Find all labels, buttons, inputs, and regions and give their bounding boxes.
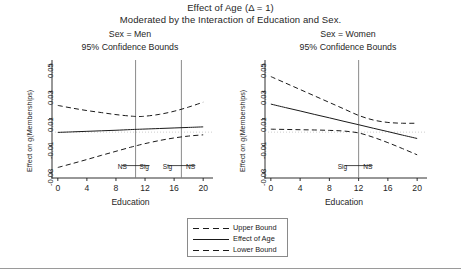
legend-key-solid-effect bbox=[193, 238, 229, 239]
footer-rule bbox=[0, 268, 461, 269]
ytick-label-men-3: 0.03 bbox=[46, 90, 55, 105]
series-upper-bound bbox=[271, 77, 417, 124]
xtick-label-men-5: 20 bbox=[188, 183, 218, 193]
sig-annotation-women-1: NS bbox=[363, 163, 372, 170]
x-axis-label-men: Education bbox=[81, 197, 181, 207]
sig-annotation-men-3: NS bbox=[186, 163, 195, 170]
plot-area-women bbox=[218, 0, 461, 200]
xtick-label-men-1: 4 bbox=[72, 183, 102, 193]
legend-item-upper-bound: Upper Bound bbox=[193, 222, 282, 233]
ytick-label-men-1: -0.01 bbox=[46, 141, 55, 158]
xtick-label-men-3: 12 bbox=[130, 183, 160, 193]
xtick-label-men-0: 0 bbox=[43, 183, 73, 193]
legend-label-effect-of-age: Effect of Age bbox=[233, 233, 275, 244]
ytick-label-men-2: 0.01 bbox=[46, 117, 55, 132]
sig-annotation-men-0: NS bbox=[118, 163, 127, 170]
xtick-label-women-4: 16 bbox=[373, 183, 403, 193]
x-axis-label-women: Education bbox=[294, 197, 394, 207]
xtick-label-women-3: 12 bbox=[344, 183, 374, 193]
xtick-label-women-0: 0 bbox=[256, 183, 286, 193]
ytick-label-women-2: 0.01 bbox=[259, 117, 268, 132]
ytick-label-women-3: 0.03 bbox=[259, 90, 268, 105]
sig-annotation-women-0: Sig bbox=[338, 163, 348, 170]
legend-label-lower-bound: Lower Bound bbox=[233, 244, 277, 255]
y-axis-label-men: Effect on g(Memberships) bbox=[25, 90, 34, 172]
xtick-label-men-2: 8 bbox=[101, 183, 131, 193]
xtick-label-men-4: 16 bbox=[159, 183, 189, 193]
legend-item-effect-of-age: Effect of Age bbox=[193, 233, 282, 244]
xtick-label-women-1: 4 bbox=[285, 183, 315, 193]
legend-label-upper-bound: Upper Bound bbox=[233, 222, 277, 233]
legend-key-dashed-lower bbox=[193, 249, 229, 250]
xtick-label-women-5: 20 bbox=[402, 183, 432, 193]
figure-root: Effect of Age (Δ = 1) Moderated by the I… bbox=[0, 0, 461, 276]
legend: Upper Bound Effect of Age Lower Bound bbox=[187, 218, 288, 257]
ytick-label-women-1: -0.01 bbox=[259, 141, 268, 158]
y-axis-label-women: Effect on g(Memberships) bbox=[238, 90, 247, 172]
series-effect-of-age bbox=[271, 104, 417, 138]
sig-annotation-men-1: Sig bbox=[139, 163, 149, 170]
plot-area-men bbox=[0, 0, 230, 200]
xtick-label-women-2: 8 bbox=[314, 183, 344, 193]
sig-annotation-men-2: Sig bbox=[163, 163, 173, 170]
ytick-label-women-4: 0.05 bbox=[259, 63, 268, 78]
ytick-label-men-4: 0.05 bbox=[46, 63, 55, 78]
legend-item-lower-bound: Lower Bound bbox=[193, 244, 282, 255]
legend-key-dashed-upper bbox=[193, 227, 229, 228]
